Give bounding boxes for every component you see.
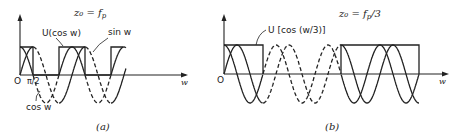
figure: z₀ = fp U(cos w) sin w cos w O π/2 w (a)… <box>0 0 459 137</box>
tick-pi-over-2: π/2 <box>27 77 40 86</box>
x-axis-label: w <box>439 77 446 86</box>
caption-a: (a) <box>96 121 110 132</box>
y-axis-arrow-icon <box>222 14 227 21</box>
panel-b-title: z₀ = fp/3 <box>338 8 381 21</box>
label-cos-w: cos w <box>26 102 51 112</box>
y-axis-arrow-icon <box>18 14 23 21</box>
leader-line <box>93 38 108 52</box>
label-sin-w: sin w <box>108 27 131 37</box>
origin-label: O <box>217 75 224 85</box>
cos-w-curve-segment <box>111 47 126 75</box>
panel-a: z₀ = fp U(cos w) sin w cos w O π/2 w (a) <box>14 7 188 132</box>
unit-step-u-cos-w <box>20 47 123 75</box>
x-axis-arrow-icon <box>181 73 188 78</box>
panel-b: z₀ = fp/3 U [cos (w/3)] O w (b) <box>217 8 449 132</box>
sin-w-curve-segment <box>111 69 126 104</box>
sin-w-curve-segment <box>20 47 33 75</box>
x-axis-arrow-icon <box>442 72 449 77</box>
label-u-cos-w-over-3: U [cos (w/3)] <box>268 25 326 35</box>
label-u-cos-w: U(cos w) <box>42 28 81 38</box>
panel-a-title: z₀ = fp <box>73 7 107 20</box>
origin-label: O <box>14 76 21 86</box>
unit-step-u-cos-w-over-3 <box>224 45 419 74</box>
x-axis-label: w <box>181 78 188 87</box>
leader-line <box>256 30 266 45</box>
leader-line <box>56 38 63 46</box>
cos-w-curve-segment <box>85 76 111 103</box>
caption-b: (b) <box>325 121 339 132</box>
